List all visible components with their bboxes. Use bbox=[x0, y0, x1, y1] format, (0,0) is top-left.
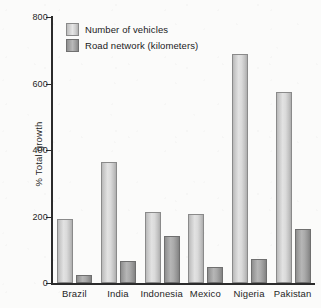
bar-road-network bbox=[295, 229, 311, 283]
x-axis-category-label: Indonesia bbox=[140, 288, 183, 299]
plot-area: 0200400600800 BrazilIndiaIndonesiaMexico… bbox=[52, 17, 314, 283]
y-axis-tick-label: 800 bbox=[32, 12, 48, 22]
bar-group: Mexico bbox=[188, 17, 223, 283]
bar-road-network bbox=[164, 236, 180, 283]
bar-road-network bbox=[120, 261, 136, 283]
bar-group: Indonesia bbox=[145, 17, 180, 283]
bar-number-of-vehicles bbox=[101, 162, 117, 283]
bar-chart-figure: % Total growth Number of vehicles Road n… bbox=[0, 0, 321, 308]
x-axis-category-label: Pakistan bbox=[274, 288, 312, 299]
x-axis-line bbox=[51, 283, 315, 285]
x-axis-category-label: India bbox=[107, 288, 128, 299]
bar-group: Nigeria bbox=[232, 17, 267, 283]
y-axis-tick-label: 600 bbox=[32, 79, 48, 89]
bar-number-of-vehicles bbox=[232, 54, 248, 283]
bar-groups: BrazilIndiaIndonesiaMexicoNigeriaPakista… bbox=[52, 17, 314, 283]
bar-road-network bbox=[207, 267, 223, 283]
bar-number-of-vehicles bbox=[276, 92, 292, 283]
x-axis-category-label: Brazil bbox=[62, 288, 87, 299]
x-axis-category-label: Nigeria bbox=[233, 288, 264, 299]
bar-group: Pakistan bbox=[276, 17, 311, 283]
y-axis-tick-label: 400 bbox=[32, 145, 48, 155]
bar-number-of-vehicles bbox=[57, 219, 73, 283]
bar-number-of-vehicles bbox=[145, 212, 161, 283]
bar-group: Brazil bbox=[57, 17, 92, 283]
x-axis-category-label: Mexico bbox=[190, 288, 221, 299]
bar-road-network bbox=[251, 259, 267, 283]
y-axis-tick-label: 200 bbox=[32, 212, 48, 222]
bar-road-network bbox=[76, 275, 92, 283]
bar-number-of-vehicles bbox=[188, 214, 204, 283]
y-axis-tick-label: 0 bbox=[43, 278, 48, 288]
bar-group: India bbox=[101, 17, 136, 283]
